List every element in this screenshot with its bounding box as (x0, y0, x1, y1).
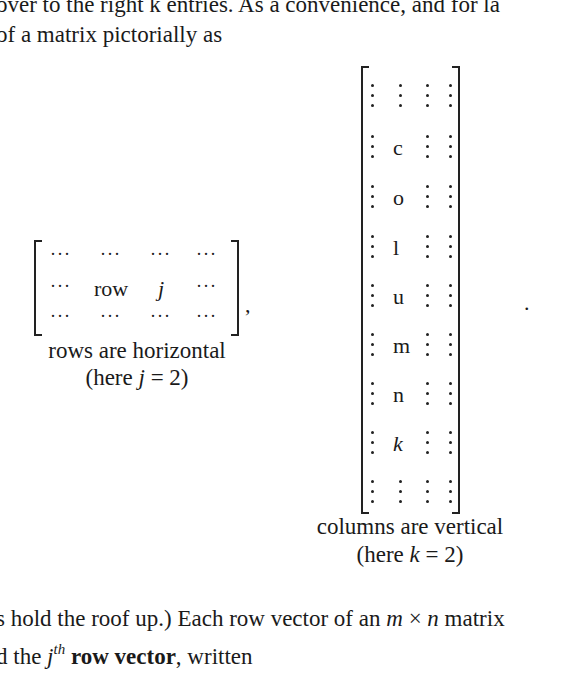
vertical-dots (449, 135, 453, 165)
vertical-dots (449, 185, 453, 215)
dots: ··· (196, 276, 217, 297)
vertical-dots (449, 284, 453, 314)
right-bracket (231, 240, 239, 336)
column-letter: o (393, 185, 404, 211)
dots: ··· (50, 244, 71, 265)
vertical-dots (426, 135, 430, 165)
column-letter: k (393, 431, 403, 457)
text-line-4: d the jth row vector, written (0, 636, 253, 670)
dots: ··· (50, 276, 71, 297)
vertical-dots (371, 431, 375, 461)
vertical-dots (371, 235, 375, 265)
row-index-j: j (158, 276, 164, 302)
vertical-dots (426, 431, 430, 461)
vertical-dots (371, 480, 375, 510)
row-caption-note: (here j = 2) (38, 365, 236, 391)
left-bracket (34, 240, 42, 336)
text-line-3: s hold the roof up.) Each row vector of … (0, 606, 505, 632)
vertical-dots (449, 84, 453, 114)
text-line-1: over to the right k entries. As a conven… (0, 0, 500, 18)
text-line-2: of a matrix pictorially as (0, 22, 222, 48)
vertical-dots (426, 84, 430, 114)
comma: , (245, 292, 251, 318)
vertical-dots (426, 480, 430, 510)
vertical-dots (371, 333, 375, 363)
vertical-dots (449, 333, 453, 363)
dots: ··· (196, 306, 217, 327)
column-letter: c (393, 135, 403, 161)
column-caption-note: (here k = 2) (290, 542, 530, 568)
right-bracket (452, 66, 460, 514)
vertical-dots (371, 382, 375, 412)
row-caption: rows are horizontal (38, 338, 236, 364)
row-label: row (94, 276, 128, 302)
column-letter: m (393, 333, 410, 359)
dots: ··· (50, 306, 71, 327)
vertical-dots (426, 284, 430, 314)
column-caption: columns are vertical (290, 514, 530, 540)
vertical-dots (426, 235, 430, 265)
vertical-dots (399, 480, 403, 510)
column-letter: l (393, 235, 399, 261)
dots: ··· (196, 244, 217, 265)
vertical-dots (449, 382, 453, 412)
dots: ··· (100, 306, 121, 327)
column-letter: u (393, 284, 404, 310)
left-bracket (361, 66, 369, 514)
dots: ··· (150, 306, 171, 327)
vertical-dots (449, 235, 453, 265)
vertical-dots (371, 84, 375, 114)
vertical-dots (399, 84, 403, 114)
vertical-dots (449, 431, 453, 461)
dots: ··· (100, 244, 121, 265)
vertical-dots (426, 185, 430, 215)
vertical-dots (371, 185, 375, 215)
period: . (524, 290, 530, 316)
vertical-dots (371, 284, 375, 314)
vertical-dots (426, 382, 430, 412)
dots: ··· (150, 244, 171, 265)
vertical-dots (426, 333, 430, 363)
column-letter: n (393, 382, 404, 408)
vertical-dots (449, 480, 453, 510)
vertical-dots (371, 135, 375, 165)
